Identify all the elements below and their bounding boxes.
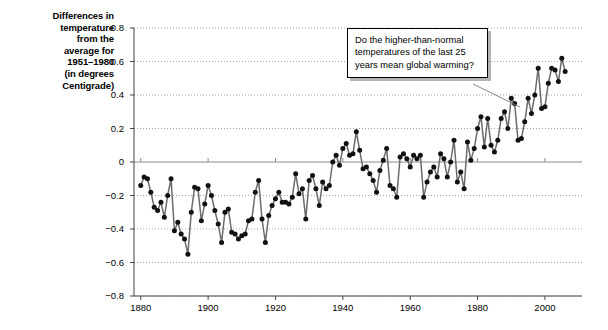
x-tick-label: 1940 <box>323 303 363 313</box>
x-tick-label: 1880 <box>121 303 161 313</box>
y-tick-label: −0.4 <box>96 224 124 234</box>
data-point <box>179 232 184 237</box>
data-point <box>354 129 359 134</box>
data-point <box>482 144 487 149</box>
data-point <box>334 153 339 158</box>
data-point <box>458 170 463 175</box>
data-point <box>364 165 369 170</box>
data-point <box>162 215 167 220</box>
y-axis-label-line-1: Differences in <box>8 10 114 22</box>
data-point <box>428 170 433 175</box>
temperature-anomaly-chart: Differences in temperature from the aver… <box>0 0 608 330</box>
data-point <box>199 218 204 223</box>
data-point <box>421 195 426 200</box>
data-point <box>418 153 423 158</box>
data-point <box>148 190 153 195</box>
data-point <box>266 213 271 218</box>
data-point <box>465 139 470 144</box>
data-point <box>165 193 170 198</box>
data-point <box>425 180 430 185</box>
data-point <box>260 216 265 221</box>
data-point <box>330 160 335 165</box>
data-point <box>226 206 231 211</box>
data-point <box>313 186 318 191</box>
y-tick-label: 0.2 <box>96 124 124 134</box>
data-point <box>542 104 547 109</box>
data-point <box>374 190 379 195</box>
data-point <box>499 116 504 121</box>
y-tick-label: −0.2 <box>96 191 124 201</box>
data-point <box>300 186 305 191</box>
x-tick-label: 1980 <box>458 303 498 313</box>
data-point <box>489 143 494 148</box>
data-point <box>327 183 332 188</box>
y-axis-label-line-3: from the <box>8 33 114 45</box>
data-point <box>185 252 190 257</box>
data-point <box>182 237 187 242</box>
data-point <box>441 156 446 161</box>
data-point <box>408 165 413 170</box>
data-point <box>293 171 298 176</box>
y-tick-label: 0.6 <box>96 57 124 67</box>
data-point <box>196 186 201 191</box>
data-point <box>536 66 541 71</box>
data-point <box>381 158 386 163</box>
data-point <box>394 195 399 200</box>
data-point <box>559 56 564 61</box>
data-point <box>256 178 261 183</box>
data-point <box>435 175 440 180</box>
data-point <box>243 232 248 237</box>
data-point <box>556 79 561 84</box>
data-point <box>462 186 467 191</box>
y-tick-label: 0.4 <box>96 90 124 100</box>
data-point <box>431 165 436 170</box>
data-point <box>286 201 291 206</box>
data-point <box>145 176 150 181</box>
data-point <box>532 93 537 98</box>
data-point <box>438 151 443 156</box>
data-point <box>401 151 406 156</box>
y-axis-label-line-4: average for <box>8 45 114 57</box>
x-axis-tick-marks <box>141 158 545 300</box>
data-point <box>175 220 180 225</box>
data-point <box>189 210 194 215</box>
data-point <box>209 193 214 198</box>
data-point <box>202 201 207 206</box>
data-point <box>357 148 362 153</box>
data-point <box>219 240 224 245</box>
data-point <box>350 151 355 156</box>
data-point <box>452 138 457 143</box>
x-tick-label: 1920 <box>255 303 295 313</box>
data-point <box>303 216 308 221</box>
x-tick-label: 1960 <box>390 303 430 313</box>
y-axis-label-line-6: (in degrees <box>8 68 114 80</box>
data-point <box>468 158 473 163</box>
y-tick-label: 0 <box>96 157 124 167</box>
data-point <box>445 175 450 180</box>
data-point <box>310 173 315 178</box>
data-point <box>509 96 514 101</box>
data-point <box>478 114 483 119</box>
data-point <box>263 240 268 245</box>
data-point <box>212 208 217 213</box>
data-point <box>492 149 497 154</box>
data-point <box>563 69 568 74</box>
y-tick-label: 0.8 <box>96 23 124 33</box>
temperature-series-points <box>138 56 567 257</box>
data-point <box>270 203 275 208</box>
data-point <box>472 146 477 151</box>
data-point <box>253 190 258 195</box>
data-point <box>169 176 174 181</box>
x-tick-label: 2000 <box>525 303 565 313</box>
y-axis-tick-marks <box>130 28 134 296</box>
data-point <box>371 178 376 183</box>
y-tick-label: −0.6 <box>96 258 124 268</box>
data-point <box>404 156 409 161</box>
data-point <box>526 96 531 101</box>
data-point <box>367 171 372 176</box>
data-point <box>233 232 238 237</box>
data-point <box>320 180 325 185</box>
data-point <box>377 168 382 173</box>
data-point <box>522 119 527 124</box>
callout-box: Do the higher-than-normal temperatures o… <box>347 28 488 78</box>
